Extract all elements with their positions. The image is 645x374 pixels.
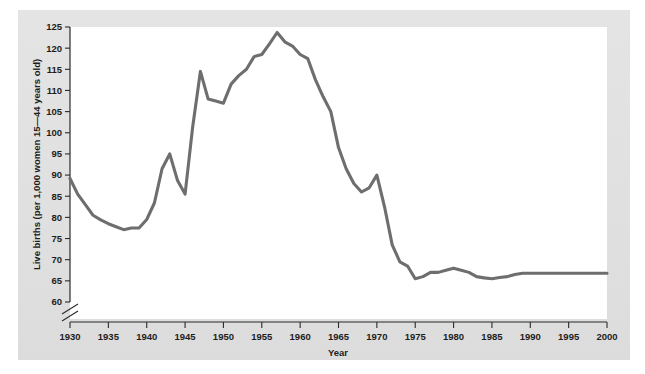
- y-tick-label: 95: [51, 148, 62, 159]
- x-tick-label: 1960: [290, 331, 311, 342]
- x-tick-label: 1970: [366, 331, 387, 342]
- y-tick-label: 100: [46, 127, 62, 138]
- x-tick-label: 1980: [443, 331, 464, 342]
- y-tick-label: 90: [51, 169, 62, 180]
- y-tick-label: 105: [46, 106, 63, 117]
- y-tick-label: 125: [46, 21, 63, 32]
- y-tick-label: 85: [51, 191, 62, 202]
- x-tick-label: 1975: [405, 331, 427, 342]
- y-tick-label: 70: [51, 254, 62, 265]
- x-tick-label: 1985: [481, 331, 503, 342]
- figure-container: 6065707580859095100105110115120125 19301…: [0, 0, 645, 374]
- y-tick-label: 110: [47, 85, 62, 96]
- y-axis-title: Live births (per 1,000 women 15—44 years…: [31, 59, 42, 270]
- y-axis-tick-group: 6065707580859095100105110115120125: [46, 21, 70, 307]
- x-tick-label: 1930: [59, 331, 80, 342]
- x-tick-label: 1990: [520, 331, 541, 342]
- axis-break-slash-icon: [62, 304, 78, 321]
- x-tick-label: 1955: [251, 331, 273, 342]
- x-axis-tick-group: 1930193519401945195019551960196519701975…: [59, 322, 617, 342]
- x-tick-label: 1995: [558, 331, 580, 342]
- x-axis-title: Year: [328, 347, 348, 358]
- x-tick-label: 1945: [175, 331, 197, 342]
- series-line-live-birth-rate: [70, 33, 607, 279]
- y-tick-label: 120: [46, 43, 62, 54]
- y-tick-label: 65: [51, 275, 62, 286]
- x-tick-label: 1965: [328, 331, 350, 342]
- x-tick-label: 1935: [98, 331, 120, 342]
- x-tick-label: 1940: [136, 331, 157, 342]
- x-tick-label: 2000: [596, 331, 617, 342]
- y-tick-label: 115: [47, 64, 63, 75]
- y-tick-label: 80: [51, 212, 62, 223]
- y-tick-label: 75: [51, 233, 62, 244]
- line-chart: 6065707580859095100105110115120125 19301…: [0, 0, 645, 374]
- y-tick-label: 60: [51, 296, 62, 307]
- x-tick-label: 1950: [213, 331, 234, 342]
